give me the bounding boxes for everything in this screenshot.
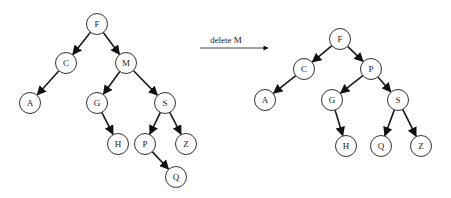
edge-G-H (102, 112, 113, 134)
edge-P-S (378, 77, 391, 92)
bst-deletion-diagram: FCMAGSHPZQ delete M FCPAGSHQZ (0, 0, 451, 198)
node-Z: Z (176, 134, 197, 155)
node-label: G (94, 98, 101, 108)
node-label: A (27, 98, 34, 108)
edge-P-Q (152, 152, 168, 169)
node-label: F (94, 19, 99, 29)
node-G: G (87, 93, 108, 114)
edge-C-A (37, 71, 59, 95)
tree-before-deletion: FCMAGSHPZQ (20, 14, 197, 188)
edge-M-G (103, 72, 119, 95)
node-label: S (162, 98, 167, 108)
node-label: C (63, 58, 69, 68)
edge-F-C (312, 46, 331, 62)
node-Q: Q (166, 167, 187, 188)
node-F: F (330, 29, 351, 50)
edge-S-P (150, 112, 161, 134)
node-A: A (255, 90, 276, 111)
node-label: Z (183, 139, 189, 149)
node-G: G (322, 90, 343, 111)
node-label: P (368, 64, 373, 74)
node-C: C (294, 59, 315, 80)
node-label: P (142, 139, 147, 149)
edge-S-Z (170, 112, 181, 134)
edge-C-A (274, 76, 296, 94)
operation-label: delete M (210, 35, 242, 45)
node-label: Z (418, 141, 424, 151)
node-label: Q (378, 141, 385, 151)
node-P: P (361, 59, 382, 80)
node-Q: Q (371, 136, 392, 157)
node-H: H (108, 134, 129, 155)
node-S: S (155, 93, 176, 114)
node-C: C (56, 53, 77, 74)
edge-F-C (73, 32, 91, 54)
edge-M-S (133, 71, 157, 96)
node-label: G (329, 95, 336, 105)
node-label: A (262, 95, 269, 105)
node-S: S (388, 90, 409, 111)
node-label: H (115, 139, 122, 149)
node-P: P (135, 134, 156, 155)
node-Z: Z (411, 136, 432, 157)
node-label: H (343, 141, 350, 151)
node-label: F (337, 34, 342, 44)
edge-F-M (103, 32, 119, 54)
node-A: A (20, 93, 41, 114)
node-label: C (301, 64, 307, 74)
node-H: H (336, 136, 357, 157)
tree-after-deletion: FCPAGSHQZ (255, 29, 432, 157)
node-F: F (87, 14, 108, 35)
edge-F-P (348, 46, 364, 61)
edge-S-Q (385, 110, 395, 136)
edge-S-Z (403, 109, 416, 136)
node-label: M (122, 58, 130, 68)
delete-operation-arrow: delete M (200, 35, 268, 48)
edge-P-G (341, 76, 363, 94)
node-M: M (116, 53, 137, 74)
node-label: S (395, 95, 400, 105)
node-label: Q (173, 172, 180, 182)
edge-G-H (335, 110, 343, 135)
